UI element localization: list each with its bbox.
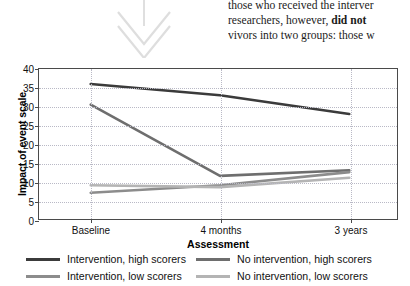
y-tick-label: 20 xyxy=(23,140,34,151)
x-tick-mark xyxy=(221,219,222,223)
y-tick-label: 5 xyxy=(28,197,34,208)
y-tick-label: 30 xyxy=(23,102,34,113)
x-tick-label: 3 years xyxy=(335,225,368,236)
document-text-line-2: researchers, however, did not xyxy=(228,13,410,28)
x-tick-label: 4 months xyxy=(200,225,241,236)
chart-series-line-1 xyxy=(91,105,350,176)
impact-of-event-scale-chart: Impact of event scale 0510152025303540Ba… xyxy=(0,60,410,246)
y-tick-label: 25 xyxy=(23,121,34,132)
y-tick-mark xyxy=(35,88,39,89)
chart-series-line-0 xyxy=(91,84,350,114)
y-tick-label: 40 xyxy=(23,64,34,75)
y-tick-mark xyxy=(35,126,39,127)
legend-swatch xyxy=(196,275,230,278)
double-chevron-down-arrow-icon xyxy=(112,0,176,58)
chart-series-layer xyxy=(39,69,397,219)
legend-label: Intervention, low scorers xyxy=(67,270,182,282)
y-tick-mark xyxy=(35,183,39,184)
legend-item: Intervention, high scorers xyxy=(26,252,186,266)
document-text-excerpt: those who received the interver research… xyxy=(228,0,410,44)
document-text-line-1: those who received the interver xyxy=(228,0,410,13)
y-tick-label: 15 xyxy=(23,159,34,170)
x-tick-label: Baseline xyxy=(72,225,110,236)
legend-label: No intervention, high scorers xyxy=(237,253,372,265)
y-tick-label: 0 xyxy=(28,216,34,227)
legend-swatch xyxy=(26,275,60,278)
x-axis-title: Assessment xyxy=(38,238,398,250)
legend-label: Intervention, high scorers xyxy=(67,253,186,265)
y-tick-mark xyxy=(35,221,39,222)
y-tick-mark xyxy=(35,107,39,108)
document-text-line-3: vivors into two groups: those w xyxy=(228,28,410,43)
legend-item: No intervention, high scorers xyxy=(196,252,372,266)
legend-swatch xyxy=(196,258,230,261)
y-tick-mark xyxy=(35,69,39,70)
legend-swatch xyxy=(26,258,60,261)
y-tick-label: 35 xyxy=(23,83,34,94)
chart-legend: Intervention, high scorersNo interventio… xyxy=(0,252,410,286)
x-tick-mark xyxy=(351,219,352,223)
legend-item: Intervention, low scorers xyxy=(26,269,182,283)
y-tick-label: 10 xyxy=(23,178,34,189)
chart-plot-area: 0510152025303540Baseline4 months3 years xyxy=(38,68,398,220)
y-tick-mark xyxy=(35,145,39,146)
legend-label: No intervention, low scorers xyxy=(237,270,368,282)
document-text-bold-phrase: did not xyxy=(331,14,366,27)
y-tick-mark xyxy=(35,202,39,203)
legend-item: No intervention, low scorers xyxy=(196,269,368,283)
x-tick-mark xyxy=(91,219,92,223)
y-tick-mark xyxy=(35,164,39,165)
document-text-line-2-plain: researchers, however, xyxy=(228,14,331,27)
